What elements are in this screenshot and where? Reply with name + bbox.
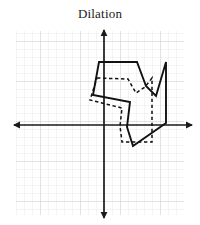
major-gridlines — [16, 31, 184, 215]
x-axis-right-arrow-icon — [186, 122, 193, 129]
grid-layer — [16, 31, 184, 215]
dilation-figure: Dilation — [0, 0, 200, 225]
coordinate-plane — [0, 0, 200, 225]
y-axis-down-arrow-icon — [101, 212, 108, 219]
